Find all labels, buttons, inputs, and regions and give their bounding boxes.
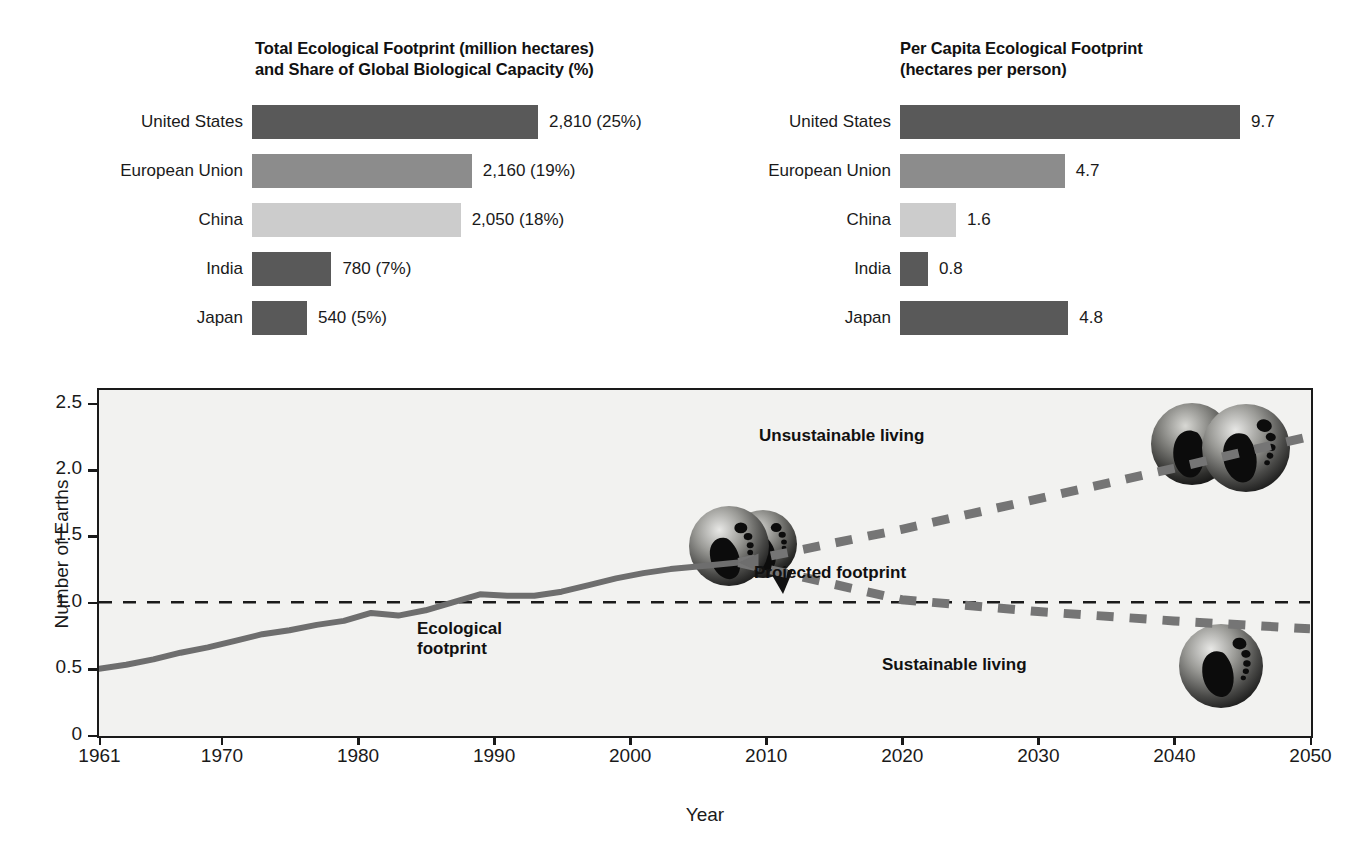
y-axis-tick-label: 0.5 [34, 656, 82, 678]
y-axis-tick-label: 1.0 [34, 590, 82, 612]
bar-row-label: United States [141, 112, 252, 132]
bar-row: United States2,810 (25%) [252, 105, 642, 139]
bar-rect [900, 252, 928, 286]
bar-row-label: China [847, 210, 900, 230]
per-capita-title: Per Capita Ecological Footprint (hectare… [900, 38, 1300, 80]
bar-rect [252, 154, 472, 188]
bar-rect [900, 105, 1240, 139]
x-axis-tick-label: 1970 [187, 745, 257, 767]
y-axis-tick-mark [88, 668, 97, 671]
bar-row-value: 4.8 [1068, 308, 1103, 328]
bar-row-value: 2,810 (25%) [538, 112, 642, 132]
bar-row-label: China [199, 210, 252, 230]
bar-row-label: India [854, 259, 900, 279]
y-axis-tick-mark [88, 469, 97, 472]
bar-row-value: 780 (7%) [331, 259, 411, 279]
one-earth-footprint-globe-sustainable [1179, 624, 1263, 708]
per-capita-chart: Per Capita Ecological Footprint (hectare… [700, 0, 1349, 360]
annotation-ecological-footprint: Ecological footprint [417, 619, 502, 659]
x-axis-tick-label: 2000 [595, 745, 665, 767]
bar-row: China1.6 [900, 203, 991, 237]
x-axis-tick-label: 2050 [1276, 745, 1346, 767]
bar-rect [252, 301, 307, 335]
x-axis-tick-label: 1961 [65, 745, 135, 767]
bar-row-value: 4.7 [1065, 161, 1100, 181]
total-footprint-title-line1: Total Ecological Footprint (million hect… [255, 39, 594, 57]
annotation-projected-footprint: Projected footprint [754, 563, 906, 583]
x-axis-tick-label: 2030 [1003, 745, 1073, 767]
x-axis-tick-label: 2010 [731, 745, 801, 767]
total-footprint-title: Total Ecological Footprint (million hect… [255, 38, 685, 80]
bar-row: European Union2,160 (19%) [252, 154, 575, 188]
annotation-sustainable-living: Sustainable living [882, 655, 1027, 675]
bar-row-value: 1.6 [956, 210, 991, 230]
bar-row-label: European Union [120, 161, 252, 181]
bar-rect [900, 154, 1065, 188]
bar-row: Japan540 (5%) [252, 301, 387, 335]
y-axis-tick-label: 0 [34, 723, 82, 745]
bar-row-label: Japan [197, 308, 252, 328]
y-axis-tick-label: 2.5 [34, 391, 82, 413]
bar-rect [252, 252, 331, 286]
bar-row: India780 (7%) [252, 252, 411, 286]
y-axis-label: Number of Earths [51, 454, 73, 654]
total-footprint-chart: Total Ecological Footprint (million hect… [0, 0, 700, 360]
x-axis-label: Year [645, 804, 765, 826]
y-axis-tick-mark [88, 403, 97, 406]
bar-row-value: 2,160 (19%) [472, 161, 576, 181]
bar-rect [252, 105, 538, 139]
bar-row-label: Japan [845, 308, 900, 328]
bar-row-value: 540 (5%) [307, 308, 387, 328]
x-axis-tick-label: 1990 [459, 745, 529, 767]
y-axis-tick-mark [88, 602, 97, 605]
per-capita-title-line1: Per Capita Ecological Footprint [900, 39, 1143, 57]
bar-rect [900, 203, 956, 237]
bar-row: European Union4.7 [900, 154, 1099, 188]
bar-rect [900, 301, 1068, 335]
bar-row: China2,050 (18%) [252, 203, 564, 237]
annotation-unsustainable-living: Unsustainable living [759, 426, 924, 446]
y-axis-tick-label: 2.0 [34, 457, 82, 479]
plot-area: Unsustainable living Projected footprint… [97, 388, 1313, 738]
bar-row: India0.8 [900, 252, 963, 286]
total-footprint-title-line2: and Share of Global Biological Capacity … [255, 60, 594, 78]
bar-row-value: 9.7 [1240, 112, 1275, 132]
x-axis-tick-label: 2020 [867, 745, 937, 767]
bar-row-label: India [206, 259, 252, 279]
x-axis-tick-label: 2040 [1139, 745, 1209, 767]
bar-row: United States9.7 [900, 105, 1275, 139]
bar-row-label: United States [789, 112, 900, 132]
y-axis-tick-mark [88, 735, 97, 738]
number-of-earths-line-chart: Number of Earths 00.51.01.52.02.5 196119… [0, 368, 1349, 851]
plot-svg [99, 390, 1310, 735]
bar-row-value: 2,050 (18%) [461, 210, 565, 230]
bar-row-value: 0.8 [928, 259, 963, 279]
unsustainable-projection-line [739, 436, 1311, 562]
y-axis-tick-mark [88, 535, 97, 538]
bar-row: Japan4.8 [900, 301, 1103, 335]
y-axis-tick-label: 1.5 [34, 523, 82, 545]
bar-row-label: European Union [768, 161, 900, 181]
per-capita-title-line2: (hectares per person) [900, 60, 1067, 78]
x-axis-tick-label: 1980 [323, 745, 393, 767]
bar-rect [252, 203, 461, 237]
